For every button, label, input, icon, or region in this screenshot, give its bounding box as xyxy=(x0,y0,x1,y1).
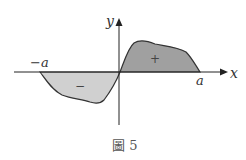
negative-sign: − xyxy=(75,79,85,93)
x-axis-label: x xyxy=(230,65,238,81)
x-axis-arrow-icon xyxy=(220,69,228,76)
y-axis-label: y xyxy=(105,13,115,29)
neg-a-label: −a xyxy=(30,55,49,70)
diagram: y x −a a + − 圖 5 xyxy=(0,0,246,160)
pos-a-label: a xyxy=(196,73,204,88)
positive-sign: + xyxy=(150,52,160,66)
y-axis-arrow-icon xyxy=(116,18,123,26)
figure-caption: 圖 5 xyxy=(112,138,137,153)
